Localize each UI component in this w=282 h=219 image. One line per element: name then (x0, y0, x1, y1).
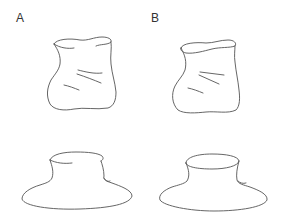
panel-b-hat-drawing (160, 154, 267, 211)
panel-b-jar-drawing (173, 40, 240, 113)
line-drawings (0, 0, 282, 219)
panel-a-hat-drawing (22, 152, 132, 209)
figure-canvas: A B (0, 0, 282, 219)
panel-a-jar-drawing (47, 37, 116, 110)
